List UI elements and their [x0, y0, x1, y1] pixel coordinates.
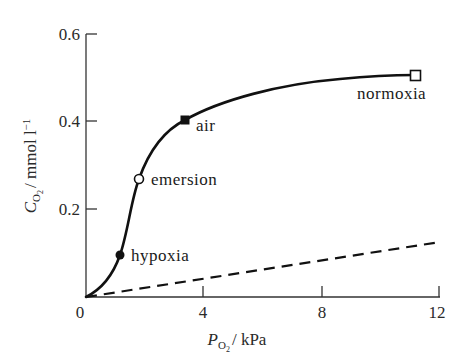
normoxia-label: normoxia — [357, 84, 426, 103]
y-tick-labels: 0.6 0.4 0.2 — [59, 25, 81, 219]
x-axis-title: PO2/ kPa — [207, 330, 267, 354]
emersion-marker — [135, 175, 144, 184]
y-tick-label: 0.4 — [59, 112, 81, 131]
hypoxia-marker — [116, 251, 125, 260]
x-tick-label: 4 — [199, 303, 208, 322]
svg-text:CO2/ mmol l−1: CO2/ mmol l−1 — [20, 119, 45, 214]
x-tick-label: 8 — [318, 303, 327, 322]
emersion-label: emersion — [151, 170, 217, 189]
air-label: air — [196, 116, 215, 135]
y-axis-title: CO2/ mmol l−1 — [20, 119, 45, 214]
x-tick-labels: 0 4 8 12 — [76, 303, 446, 322]
chart: 0.6 0.4 0.2 0 4 8 12 PO2/ kPa CO2/ mmol … — [0, 0, 466, 361]
y-tick-label: 0.2 — [59, 200, 80, 219]
y-tick-label: 0.6 — [59, 25, 80, 44]
hypoxia-label: hypoxia — [131, 246, 189, 265]
svg-text:PO2/ kPa: PO2/ kPa — [207, 330, 267, 354]
air-marker — [181, 116, 190, 125]
x-tick-label: 12 — [429, 303, 446, 322]
normoxia-marker — [411, 71, 421, 81]
x-tick-label: 0 — [76, 303, 85, 322]
